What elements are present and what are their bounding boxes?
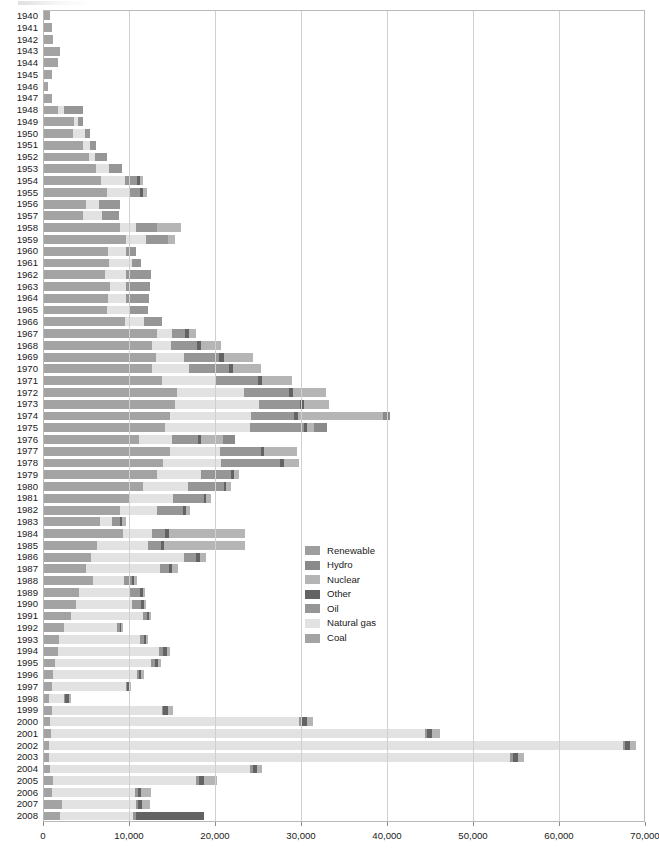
bar-segment-nuclear[interactable]: [143, 588, 146, 597]
bar-segment-coal[interactable]: [43, 353, 156, 362]
bar-segment-nuclear[interactable]: [257, 765, 262, 774]
bar-segment-natural-gas[interactable]: [125, 317, 144, 326]
stacked-bar[interactable]: [43, 47, 60, 56]
bar-segment-nuclear[interactable]: [226, 482, 231, 491]
stacked-bar[interactable]: [43, 153, 107, 162]
bar-segment-natural-gas[interactable]: [97, 541, 148, 550]
bar-row[interactable]: [43, 163, 645, 175]
bar-row[interactable]: [43, 716, 645, 728]
stacked-bar[interactable]: [43, 223, 181, 232]
bar-segment-natural-gas[interactable]: [52, 682, 126, 691]
bar-segment-oil[interactable]: [171, 341, 197, 350]
bar-row[interactable]: [43, 210, 645, 222]
stacked-bar[interactable]: [43, 435, 235, 444]
bar-row[interactable]: [43, 704, 645, 716]
bar-segment-coal[interactable]: [43, 541, 97, 550]
bar-segment-natural-gas[interactable]: [64, 623, 117, 632]
bar-segment-oil[interactable]: [95, 153, 107, 162]
stacked-bar[interactable]: [43, 35, 53, 44]
bar-segment-oil[interactable]: [189, 364, 229, 373]
bar-row[interactable]: [43, 269, 645, 281]
bar-segment-coal[interactable]: [43, 506, 120, 515]
bar-segment-other[interactable]: [136, 812, 204, 821]
bar-segment-natural-gas[interactable]: [62, 800, 136, 809]
bar-segment-natural-gas[interactable]: [86, 564, 160, 573]
bar-row[interactable]: [43, 669, 645, 681]
bar-segment-nuclear[interactable]: [189, 329, 197, 338]
stacked-bar[interactable]: [43, 117, 83, 126]
bar-row[interactable]: [43, 657, 645, 669]
stacked-bar[interactable]: [43, 729, 440, 738]
stacked-bar[interactable]: [43, 600, 146, 609]
stacked-bar[interactable]: [43, 164, 122, 173]
bar-row[interactable]: [43, 763, 645, 775]
bar-segment-nuclear[interactable]: [144, 600, 147, 609]
bar-segment-coal[interactable]: [43, 635, 59, 644]
bar-row[interactable]: [43, 434, 645, 446]
bar-segment-coal[interactable]: [43, 612, 71, 621]
stacked-bar[interactable]: [43, 82, 48, 91]
stacked-bar[interactable]: [43, 706, 173, 715]
bar-segment-nuclear[interactable]: [168, 235, 175, 244]
bar-row[interactable]: [43, 139, 645, 151]
stacked-bar[interactable]: [43, 564, 178, 573]
bar-segment-nuclear[interactable]: [262, 376, 291, 385]
bar-row[interactable]: [43, 328, 645, 340]
bar-segment-coal[interactable]: [43, 223, 120, 232]
bar-segment-oil[interactable]: [130, 306, 148, 315]
bar-segment-natural-gas[interactable]: [51, 729, 425, 738]
stacked-bar[interactable]: [43, 553, 206, 562]
bar-segment-nuclear[interactable]: [121, 623, 123, 632]
bar-row[interactable]: [43, 422, 645, 434]
bar-row[interactable]: [43, 681, 645, 693]
stacked-bar[interactable]: [43, 364, 261, 373]
bar-segment-natural-gas[interactable]: [79, 588, 130, 597]
bar-row[interactable]: [43, 351, 645, 363]
bar-segment-oil[interactable]: [184, 353, 219, 362]
bar-segment-oil[interactable]: [109, 164, 122, 173]
stacked-bar[interactable]: [43, 11, 50, 20]
bar-segment-coal[interactable]: [43, 588, 79, 597]
bar-segment-coal[interactable]: [43, 800, 62, 809]
bar-segment-natural-gas[interactable]: [71, 612, 143, 621]
bar-segment-oil[interactable]: [160, 564, 169, 573]
bar-segment-coal[interactable]: [43, 388, 177, 397]
legend-item-oil[interactable]: Oil: [305, 602, 415, 615]
bar-segment-coal[interactable]: [43, 282, 110, 291]
stacked-bar[interactable]: [43, 812, 204, 821]
bar-segment-nuclear[interactable]: [141, 788, 151, 797]
bar-segment-coal[interactable]: [43, 788, 52, 797]
bar-segment-coal[interactable]: [43, 435, 139, 444]
bar-row[interactable]: [43, 245, 645, 257]
bar-segment-coal[interactable]: [43, 341, 152, 350]
stacked-bar[interactable]: [43, 341, 221, 350]
bar-segment-coal[interactable]: [43, 70, 52, 79]
bar-segment-nuclear[interactable]: [164, 541, 245, 550]
bar-segment-natural-gas[interactable]: [50, 765, 250, 774]
bar-segment-coal[interactable]: [43, 259, 109, 268]
bar-segment-oil[interactable]: [136, 223, 158, 232]
bar-row[interactable]: [43, 92, 645, 104]
stacked-bar[interactable]: [43, 200, 120, 209]
stacked-bar[interactable]: [43, 659, 161, 668]
bar-segment-coal[interactable]: [43, 706, 52, 715]
bar-segment-nuclear[interactable]: [167, 647, 170, 656]
bar-row[interactable]: [43, 728, 645, 740]
legend-item-natural-gas[interactable]: Natural gas: [305, 617, 415, 630]
bar-segment-natural-gas[interactable]: [96, 164, 109, 173]
stacked-bar[interactable]: [43, 412, 390, 421]
bar-segment-nuclear[interactable]: [157, 223, 180, 232]
bar-row[interactable]: [43, 187, 645, 199]
bar-segment-nuclear[interactable]: [134, 576, 137, 585]
bar-segment-coal[interactable]: [43, 482, 143, 491]
bar-segment-oil[interactable]: [172, 329, 185, 338]
bar-segment-coal[interactable]: [43, 576, 93, 585]
bar-segment-natural-gas[interactable]: [177, 388, 244, 397]
bar-segment-natural-gas[interactable]: [93, 576, 124, 585]
bar-segment-coal[interactable]: [43, 211, 83, 220]
bar-segment-coal[interactable]: [43, 176, 101, 185]
bar-row[interactable]: [43, 34, 645, 46]
bar-segment-coal[interactable]: [43, 659, 55, 668]
bar-row[interactable]: [43, 457, 645, 469]
stacked-bar[interactable]: [43, 517, 126, 526]
